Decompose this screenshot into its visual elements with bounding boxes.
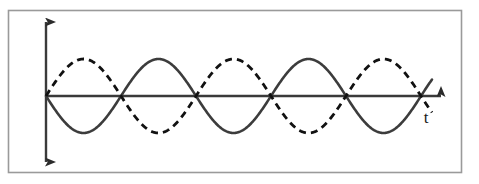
wave-diagram: t bbox=[0, 0, 479, 184]
time-axis-label: t bbox=[424, 108, 429, 127]
figure-border bbox=[9, 11, 462, 173]
figure-root: t bbox=[0, 0, 479, 184]
